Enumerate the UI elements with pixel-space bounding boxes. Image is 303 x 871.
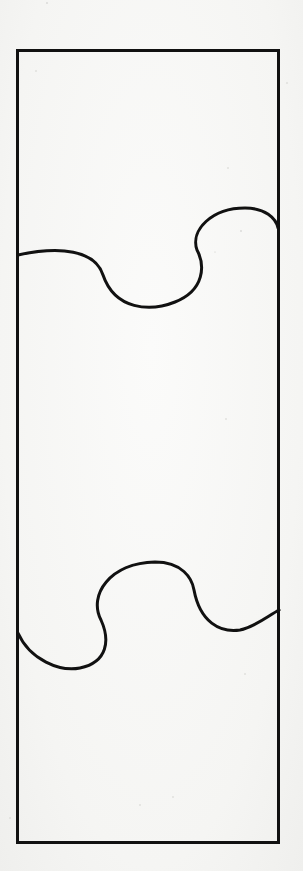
puzzle-drawing: [0, 0, 303, 871]
lower-wave-cut-line: [18, 562, 279, 669]
outer-frame: [18, 51, 279, 843]
upper-wave-cut-line: [18, 208, 278, 307]
paper-specks: [9, 2, 287, 819]
